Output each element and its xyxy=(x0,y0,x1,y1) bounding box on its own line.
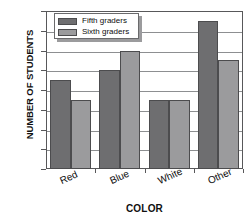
y-tick-mark xyxy=(41,169,46,170)
x-tick-mark xyxy=(194,169,195,173)
legend-item-sixth-graders: Sixth graders xyxy=(58,27,135,37)
bar xyxy=(169,100,190,169)
bar xyxy=(99,70,120,169)
legend-item-fifth-graders: Fifth graders xyxy=(58,16,135,26)
legend: Fifth graders Sixth graders xyxy=(54,13,139,39)
x-tick-mark xyxy=(95,169,96,173)
legend-swatch-fifth-graders xyxy=(58,18,77,25)
x-tick-mark xyxy=(243,169,244,173)
bar xyxy=(218,60,239,169)
bar xyxy=(120,51,141,170)
bar xyxy=(149,100,170,169)
y-axis-title: NUMBER OF STUDENTS xyxy=(24,5,35,165)
bar xyxy=(50,80,71,169)
bar xyxy=(71,100,92,169)
bar-chart: NUMBER OF STUDENTS 1614121086420 RedBlue… xyxy=(0,0,249,219)
x-axis-title: COLOR xyxy=(46,203,243,214)
bar xyxy=(198,21,219,169)
x-tick-label: Blue xyxy=(108,168,131,186)
legend-label-fifth-graders: Fifth graders xyxy=(82,17,127,25)
legend-swatch-sixth-graders xyxy=(58,29,77,36)
x-tick-label: Red xyxy=(58,169,79,187)
x-tick-mark xyxy=(145,169,146,173)
legend-label-sixth-graders: Sixth graders xyxy=(82,28,129,36)
